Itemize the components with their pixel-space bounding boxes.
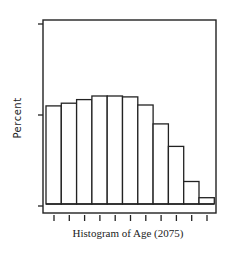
histogram-bar	[92, 96, 107, 204]
histogram-bar	[168, 146, 183, 204]
histogram-bar	[107, 96, 122, 204]
histogram-bar	[184, 182, 199, 205]
x-axis-label: Histogram of Age (2075)	[73, 227, 184, 240]
histogram-bar	[61, 103, 76, 204]
histogram-bar	[46, 106, 61, 204]
histogram-bar	[123, 97, 138, 204]
histogram-bar	[199, 198, 214, 204]
histogram-chart: Percent Histogram of Age (2075)	[0, 0, 228, 256]
histogram-bar	[138, 105, 153, 204]
histogram-bars	[46, 96, 214, 204]
histogram-bar	[153, 124, 168, 204]
histogram-bar	[77, 100, 92, 204]
y-axis-ticks	[38, 24, 43, 206]
x-axis-ticks	[54, 215, 207, 221]
y-axis-label: Percent	[12, 97, 23, 138]
